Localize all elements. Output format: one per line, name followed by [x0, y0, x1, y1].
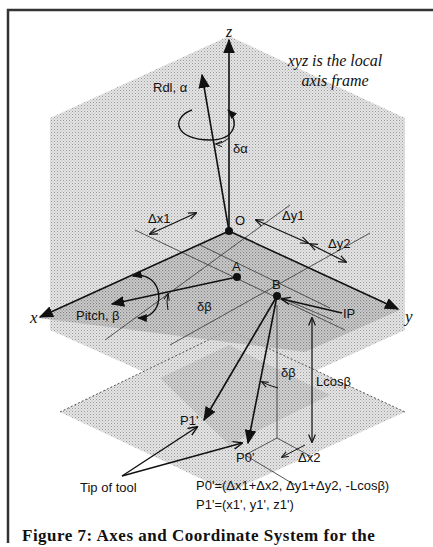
point-origin: [225, 227, 233, 235]
x-axis-label: x: [29, 308, 38, 327]
dy2-label: Δy2: [328, 236, 350, 251]
dx1-label: Δx1: [148, 211, 170, 226]
equation-p0: P0'=(Δx1+Δx2, Δy1+Δy2, -Lcosβ): [196, 478, 389, 493]
ip-label: IP: [343, 306, 355, 321]
dx2-label: Δx2: [298, 450, 320, 465]
point-a: [233, 273, 241, 281]
origin-label: O: [235, 213, 245, 228]
point-a-label: A: [232, 259, 241, 274]
pitch-label: Pitch, β: [76, 308, 120, 323]
frame-note-line1: xyz is the local: [270, 52, 400, 70]
delta-beta-label-2: δβ: [281, 365, 296, 380]
dy1-label: Δy1: [282, 208, 304, 223]
frame-note-line2: axis frame: [270, 72, 400, 90]
point-b-label: B: [272, 277, 281, 292]
p0-label: P0': [236, 450, 254, 465]
delta-alpha-label: δα: [233, 141, 248, 156]
tip-of-tool-label: Tip of tool: [80, 480, 137, 495]
figure-caption: Figure 7: Axes and Coordinate System for…: [22, 526, 375, 546]
y-axis-label: y: [403, 307, 413, 326]
p1-label: P1': [180, 413, 198, 428]
roll-label: Rdl, α: [153, 80, 188, 95]
lcosb-label: Lcosβ: [316, 374, 351, 389]
point-b: [273, 292, 281, 300]
equation-p1: P1'=(x1', y1', z1'): [196, 497, 294, 512]
z-axis-label: z: [225, 23, 233, 40]
delta-beta-label-1: δβ: [197, 299, 212, 314]
